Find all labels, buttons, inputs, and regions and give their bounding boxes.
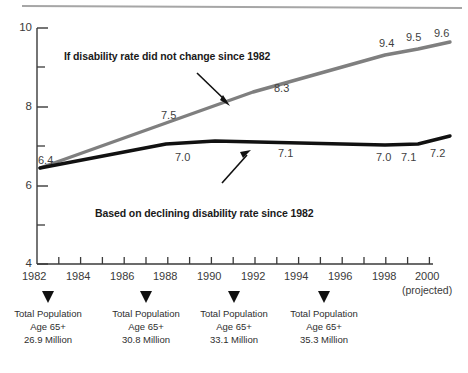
data-label-black-7-1: 7.1	[278, 148, 293, 159]
y-tick-label-6: 6	[12, 180, 32, 192]
callout-1982-line3: 26.9 Million	[0, 333, 103, 346]
data-label-gray-7-5: 7.5	[161, 110, 176, 121]
x-tick-label-1990: 1990	[197, 271, 221, 282]
y-tick-label-10: 10	[12, 22, 32, 34]
y-tick-label-8: 8	[12, 101, 32, 113]
x-tick-label-1994: 1994	[284, 271, 308, 282]
data-label-gray-9-4: 9.4	[379, 38, 394, 49]
callout-pointer-arrows	[42, 291, 330, 303]
x-tick-label-2000: 2000	[415, 271, 439, 282]
population-callout-1999: Total Population Age 65+ 35.3 Million	[269, 307, 379, 346]
x-tick-label-1984: 1984	[66, 271, 90, 282]
upper-annotation-arrow	[197, 73, 230, 106]
data-label-black-7-2: 7.2	[430, 148, 445, 159]
top-divider-rule	[22, 6, 462, 8]
callout-1999-line2: Age 65+	[269, 320, 379, 333]
data-label-gray-8-3: 8.3	[274, 83, 289, 94]
data-label-gray-9-6: 9.6	[434, 28, 449, 39]
lower-annotation-arrow	[222, 150, 251, 183]
y-axis-minor-ticks	[37, 67, 45, 225]
data-label-black-7-1-b: 7.1	[401, 152, 416, 163]
x-axis-ticks	[59, 257, 430, 264]
annotation-no-change-label: If disability rate did not change since …	[64, 51, 270, 62]
chart-container: 10 8 6 4 1982 1984 1986 1988 1990 1992 1…	[0, 0, 468, 373]
y-tick-label-4: 4	[12, 258, 32, 270]
x-tick-label-1988: 1988	[153, 271, 177, 282]
x-axis-projected-note: (projected)	[402, 285, 452, 296]
x-tick-label-1986: 1986	[110, 271, 134, 282]
callout-1982-line1: Total Population	[0, 307, 103, 320]
data-label-gray-6-4: 6.4	[38, 155, 53, 166]
callout-1999-line3: 35.3 Million	[269, 333, 379, 346]
data-label-black-7-0: 7.0	[175, 152, 190, 163]
callout-1999-line1: Total Population	[269, 307, 379, 320]
data-label-black-7-0-b: 7.0	[376, 152, 391, 163]
annotation-declining-label: Based on declining disability rate since…	[95, 208, 313, 219]
callout-1982-line2: Age 65+	[0, 320, 103, 333]
x-tick-label-1982: 1982	[22, 271, 46, 282]
x-tick-label-1992: 1992	[241, 271, 265, 282]
x-tick-label-1996: 1996	[328, 271, 352, 282]
x-tick-label-1998: 1998	[372, 271, 396, 282]
data-label-gray-9-5: 9.5	[406, 32, 421, 43]
population-callout-1982: Total Population Age 65+ 26.9 Million	[0, 307, 103, 346]
